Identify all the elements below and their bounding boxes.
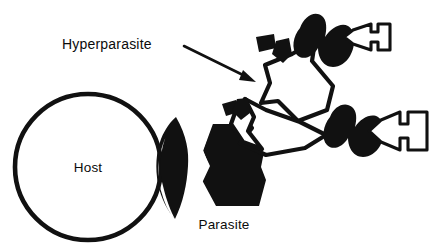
parasite-lens [156,117,188,219]
diagram-svg: Host Parasite [0,0,433,251]
hyperparasite-leader-line [184,46,243,75]
appendage-upper-block [256,34,276,52]
hyperparasite-annotation: Hyperparasite [62,36,256,82]
hyperhyperparasite-lower [323,104,427,157]
host-label: Host [74,160,103,175]
figure-canvas: Host Parasite [0,0,433,251]
host-organism: Host [15,94,161,240]
hyperparasite-leader-arrowhead [239,70,256,82]
hyperparasite-label: Hyperparasite [62,36,152,52]
parasite-label: Parasite [198,217,249,232]
